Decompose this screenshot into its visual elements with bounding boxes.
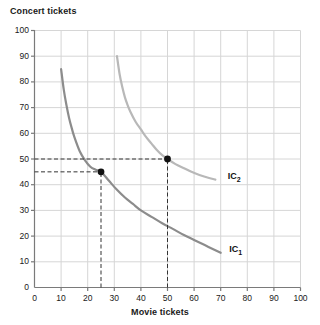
chart-container: Concert tickets 010203040506070809010001…	[0, 0, 320, 325]
y-axis-tick-label: 50	[7, 154, 29, 164]
x-axis-tick-label: 70	[210, 293, 232, 303]
series-label-subscript: 1	[238, 249, 242, 256]
x-axis-tick-label: 60	[183, 293, 205, 303]
series-label-ic1: IC1	[229, 244, 242, 256]
data-point-marker	[164, 156, 171, 163]
x-axis-tick-label: 50	[157, 293, 179, 303]
x-axis-tick-label: 90	[263, 293, 285, 303]
y-axis-tick-label: 90	[7, 51, 29, 61]
y-axis-tick-label: 60	[7, 128, 29, 138]
plot-area	[0, 0, 320, 325]
x-axis-tick-label: 10	[50, 293, 72, 303]
y-axis-tick-label: 70	[7, 102, 29, 112]
y-axis-tick-label: 80	[7, 76, 29, 86]
x-axis-title: Movie tickets	[0, 307, 320, 317]
y-axis-tick-label: 10	[7, 256, 29, 266]
y-axis-tick-label: 40	[7, 179, 29, 189]
y-axis-title: Concert tickets	[10, 6, 77, 16]
x-axis-tick-label: 80	[236, 293, 258, 303]
x-axis-tick-label: 20	[77, 293, 99, 303]
series-label-ic2: IC2	[228, 171, 241, 183]
y-axis-tick-label: 0	[7, 282, 29, 292]
x-axis-tick-label: 30	[103, 293, 125, 303]
x-axis-tick-label: 40	[130, 293, 152, 303]
x-axis-tick-label: 100	[290, 293, 312, 303]
data-point-marker	[98, 168, 105, 175]
y-axis-tick-label: 20	[7, 231, 29, 241]
series-label-subscript: 2	[237, 176, 241, 183]
x-axis-tick-label: 0	[24, 293, 46, 303]
series-label-text: IC	[228, 171, 237, 181]
y-axis-tick-label: 100	[7, 25, 29, 35]
series-label-text: IC	[229, 244, 238, 254]
y-axis-tick-label: 30	[7, 205, 29, 215]
